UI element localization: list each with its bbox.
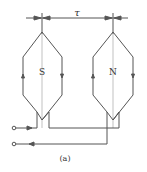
connection-leads [16,126,119,146]
coil-s [22,32,64,128]
winding-diagram: τ S N (a) [0,0,147,172]
terminal-out [12,142,16,146]
pole-label-s: S [39,67,45,77]
figure-caption: (a) [59,154,70,163]
pole-pitch-label: τ [74,7,80,18]
terminal-in [12,126,16,130]
pole-label-n: N [109,67,117,77]
